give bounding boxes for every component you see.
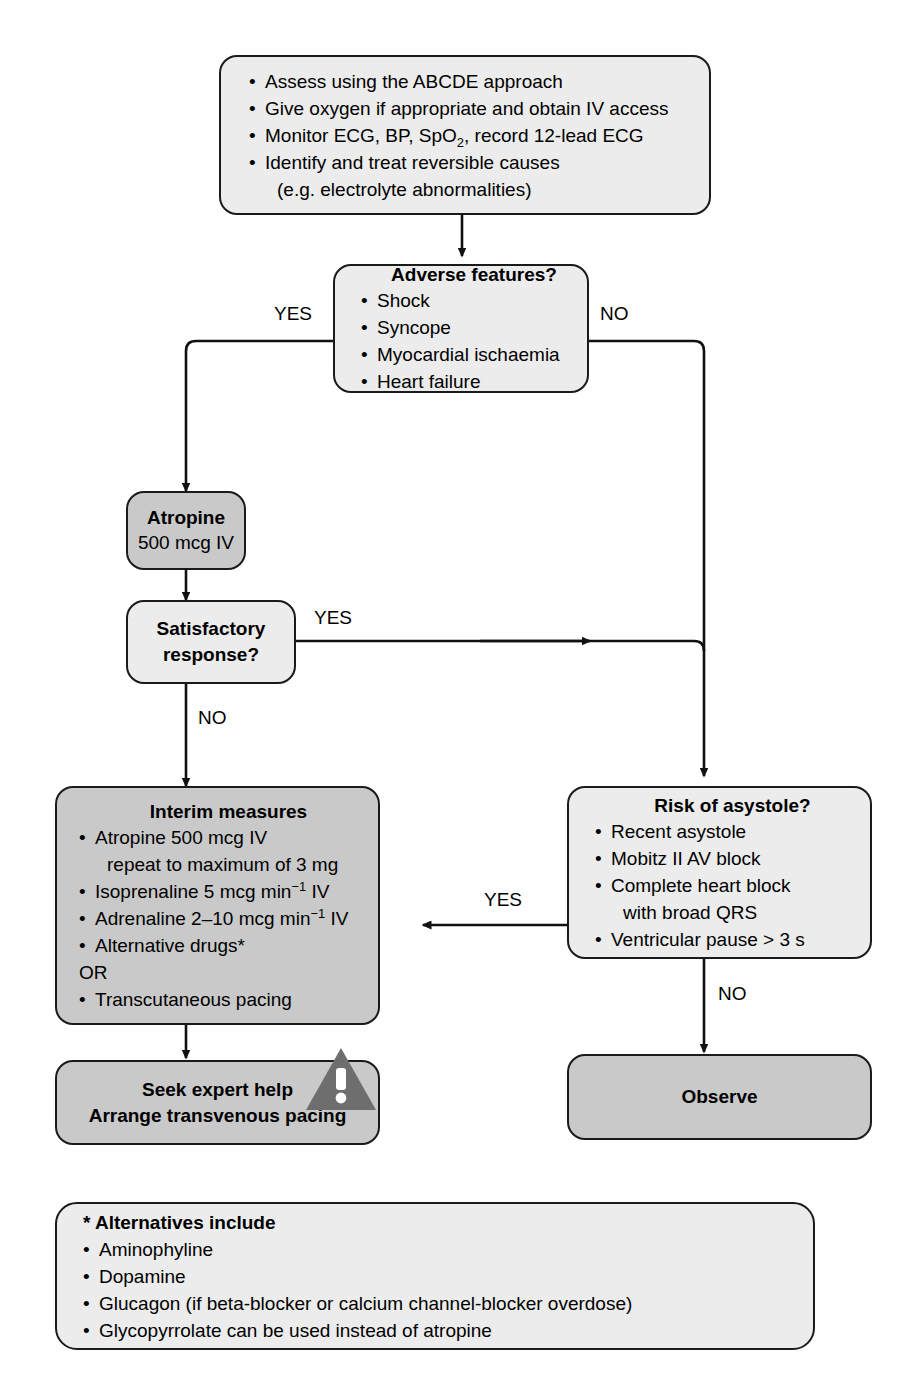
monitor-text-pre: Monitor ECG, BP, SpO xyxy=(265,125,457,146)
atropine-dose: 500 mcg IV xyxy=(128,530,244,556)
list-item: Dopamine xyxy=(83,1263,813,1290)
initial-assessment-box: Assess using the ABCDE approach Give oxy… xyxy=(219,55,711,215)
edge-label-asystole-no: NO xyxy=(718,984,747,1004)
observe-label: Observe xyxy=(569,1084,870,1110)
list-item: Myocardial ischaemia xyxy=(361,341,587,368)
spo2-subscript: 2 xyxy=(457,134,464,149)
alternatives-footnote-list: * Alternatives include Aminophyline Dopa… xyxy=(83,1209,813,1344)
satisfactory-response-line1: Satisfactory xyxy=(128,616,294,642)
list-item: Give oxygen if appropriate and obtain IV… xyxy=(249,95,709,122)
risk-of-asystole-list: Recent asystole Mobitz II AV block Compl… xyxy=(595,818,870,953)
list-item-continuation: repeat to maximum of 3 mg xyxy=(79,851,378,878)
footnote-title: * Alternatives include xyxy=(83,1209,813,1236)
list-item-continuation: (e.g. electrolyte abnormalities) xyxy=(249,176,709,203)
list-item: Glucagon (if beta-blocker or calcium cha… xyxy=(83,1290,813,1317)
list-item: Glycopyrrolate can be used instead of at… xyxy=(83,1317,813,1344)
or-separator: OR xyxy=(79,959,378,986)
isoprenaline-pre: Isoprenaline 5 mcg min xyxy=(95,881,291,902)
edge-label-satisfactory-yes: YES xyxy=(314,608,352,628)
satisfactory-response-line2: response? xyxy=(128,642,294,668)
adverse-features-box: Adverse features? Shock Syncope Myocardi… xyxy=(333,264,589,393)
list-item: Syncope xyxy=(361,314,587,341)
adverse-features-list: Shock Syncope Myocardial ischaemia Heart… xyxy=(361,287,587,395)
isoprenaline-post: IV xyxy=(306,881,329,902)
initial-assessment-list: Assess using the ABCDE approach Give oxy… xyxy=(249,68,709,203)
list-item: Heart failure xyxy=(361,368,587,395)
list-item: Shock xyxy=(361,287,587,314)
edge-label-adverse-yes: YES xyxy=(274,304,312,324)
list-item: Atropine 500 mcg IV xyxy=(79,824,378,851)
list-item: Adrenaline 2–10 mcg min−1 IV xyxy=(79,905,378,932)
edge-label-adverse-no: NO xyxy=(600,304,629,324)
list-item: Alternative drugs* xyxy=(79,932,378,959)
risk-of-asystole-box: Risk of asystole? Recent asystole Mobitz… xyxy=(567,786,872,959)
observe-box: Observe xyxy=(567,1054,872,1140)
warning-triangle-icon xyxy=(304,1046,378,1112)
atropine-box: Atropine 500 mcg IV xyxy=(126,491,246,570)
risk-of-asystole-title: Risk of asystole? xyxy=(595,793,870,818)
list-item: Aminophyline xyxy=(83,1236,813,1263)
list-item-continuation: with broad QRS xyxy=(595,899,870,926)
alternatives-footnote-box: * Alternatives include Aminophyline Dopa… xyxy=(55,1202,815,1350)
monitor-text-post: , record 12-lead ECG xyxy=(464,125,644,146)
per-minute-superscript: −1 xyxy=(291,878,306,893)
interim-measures-title: Interim measures xyxy=(79,799,378,824)
list-item: Monitor ECG, BP, SpO2, record 12-lead EC… xyxy=(249,122,709,149)
adverse-features-title: Adverse features? xyxy=(361,262,587,287)
list-item: Identify and treat reversible causes xyxy=(249,149,709,176)
list-item: Recent asystole xyxy=(595,818,870,845)
interim-measures-list: Atropine 500 mcg IV repeat to maximum of… xyxy=(79,824,378,1013)
list-item: Complete heart block xyxy=(595,872,870,899)
adrenaline-post: IV xyxy=(325,908,348,929)
atropine-title: Atropine xyxy=(128,505,244,530)
list-item: Transcutaneous pacing xyxy=(79,986,378,1013)
interim-measures-box: Interim measures Atropine 500 mcg IV rep… xyxy=(55,786,380,1025)
adrenaline-pre: Adrenaline 2–10 mcg min xyxy=(95,908,310,929)
bradycardia-algorithm-diagram: Assess using the ABCDE approach Give oxy… xyxy=(0,0,914,1381)
satisfactory-response-box: Satisfactory response? xyxy=(126,600,296,684)
list-item: Assess using the ABCDE approach xyxy=(249,68,709,95)
list-item: Isoprenaline 5 mcg min−1 IV xyxy=(79,878,378,905)
per-minute-superscript: −1 xyxy=(310,905,325,920)
edge-label-satisfactory-no: NO xyxy=(198,708,227,728)
edge-label-asystole-yes: YES xyxy=(484,890,522,910)
list-item: Ventricular pause > 3 s xyxy=(595,926,870,953)
list-item: Mobitz II AV block xyxy=(595,845,870,872)
